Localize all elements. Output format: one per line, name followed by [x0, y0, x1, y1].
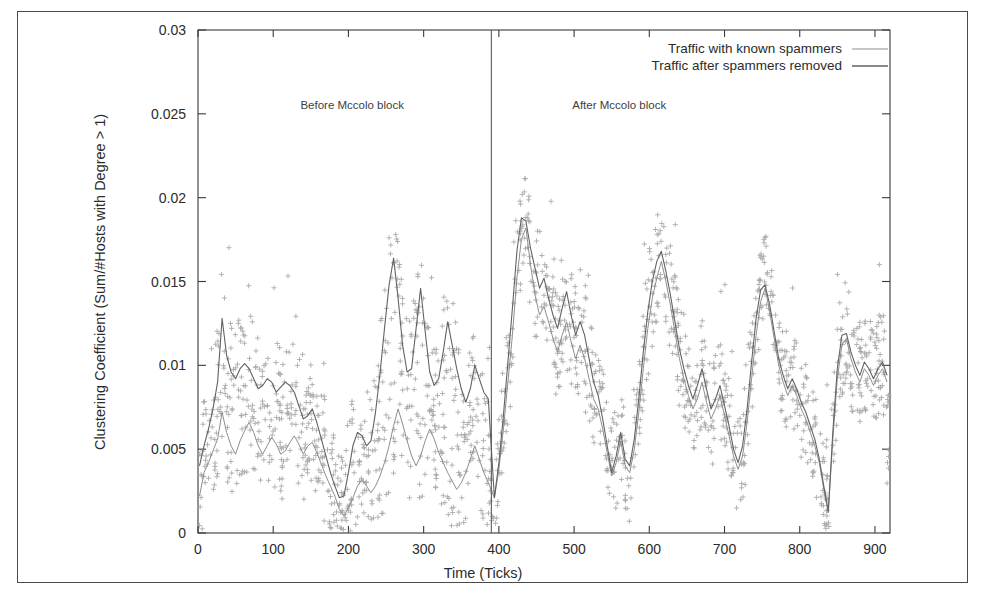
x-tick-label: 600: [638, 541, 662, 557]
y-tick-label: 0.01: [159, 357, 186, 373]
y-tick-label: 0.03: [159, 22, 186, 38]
x-tick-label: 900: [863, 541, 887, 557]
x-tick-label: 500: [562, 541, 586, 557]
series-line-2: [200, 218, 888, 511]
y-tick-label: 0.025: [151, 106, 186, 122]
x-tick-label: 800: [788, 541, 812, 557]
y-tick-label: 0.02: [159, 190, 186, 206]
scatter-markers: [197, 176, 892, 534]
legend-label-2: Traffic after spammers removed: [651, 58, 842, 73]
x-tick-label: 300: [412, 541, 436, 557]
figure-container: 010020030040050060070080090000.0050.010.…: [0, 0, 985, 605]
x-tick-label: 100: [262, 541, 286, 557]
chart-canvas: 010020030040050060070080090000.0050.010.…: [0, 0, 985, 605]
annotation-1: Before Mccolo block: [300, 99, 404, 111]
annotation-2: After Mccolo block: [572, 99, 666, 111]
x-tick-label: 400: [487, 541, 511, 557]
legend-label-1: Traffic with known spammers: [668, 41, 842, 56]
y-tick-label: 0.015: [151, 274, 186, 290]
y-tick-label: 0: [178, 525, 186, 541]
x-tick-label: 0: [194, 541, 202, 557]
x-tick-label: 700: [713, 541, 737, 557]
y-tick-label: 0.005: [151, 441, 186, 457]
x-tick-label: 200: [337, 541, 361, 557]
